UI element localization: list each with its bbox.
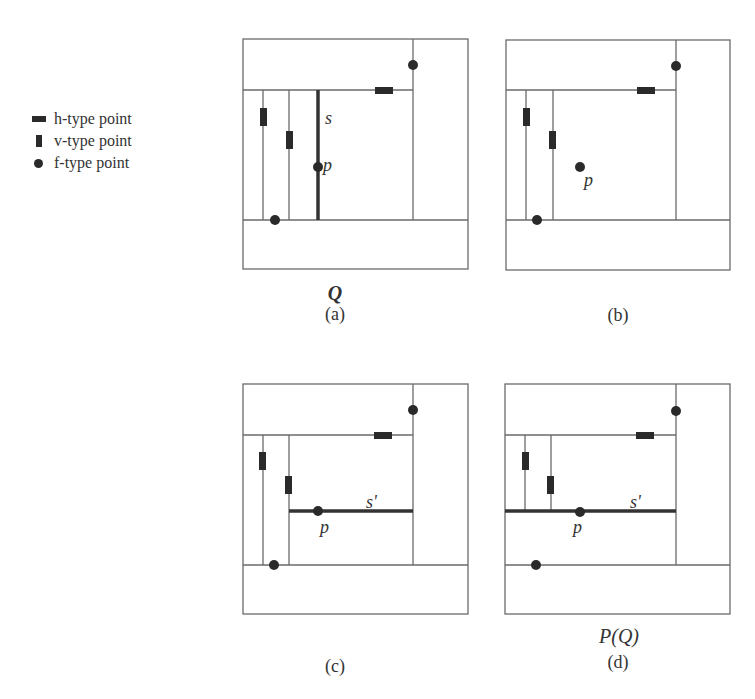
panel-title-pq: P(Q) [579,625,659,648]
f-type-point-p-icon [575,507,585,517]
diagram-canvas [0,0,755,699]
panel-caption-d: (d) [588,652,648,673]
f-type-point-icon [408,60,418,70]
panel-c-lines [243,384,468,614]
h-type-point-icon [375,87,393,94]
segment-label-s-prime: s' [630,492,641,513]
f-type-point-icon [531,560,541,570]
v-type-point-icon [259,452,266,470]
h-type-point-icon [637,87,655,94]
segment-label-s-prime: s' [366,492,377,513]
h-type-point-icon [374,432,392,439]
v-type-point-icon [285,476,292,494]
v-type-point-icon [523,108,530,126]
f-type-point-icon [270,215,280,225]
f-type-point-icon [671,406,681,416]
f-type-point-p-icon [313,506,323,516]
f-type-point-icon [408,405,418,415]
f-type-point-p-icon [313,162,323,172]
point-label-p: p [573,517,582,538]
panel-title-q: Q [295,282,375,305]
v-type-point-icon [547,476,554,494]
f-type-point-icon [269,560,279,570]
f-type-point-icon [532,215,542,225]
h-type-point-icon [636,432,654,439]
segment-label-s: s [325,108,332,129]
panel-caption-b: (b) [588,305,648,326]
v-type-point-icon [522,452,529,470]
v-type-point-icon [549,131,556,149]
point-label-p: p [323,155,332,176]
panel-a-lines [243,39,468,269]
panel-d-lines [505,384,730,614]
point-label-p: p [320,517,329,538]
panel-caption-c: (c) [305,656,365,677]
panel-b-lines [506,40,730,270]
f-type-point-icon [671,61,681,71]
v-type-point-icon [260,108,267,126]
point-label-p: p [584,170,593,191]
panel-caption-a: (a) [305,304,365,325]
v-type-point-icon [286,131,293,149]
